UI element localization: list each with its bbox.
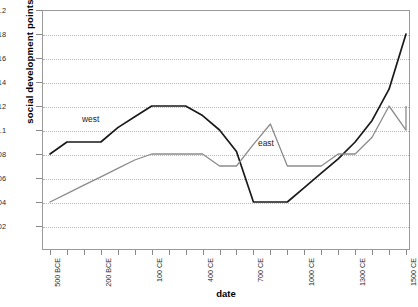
x-tick-mark	[321, 250, 322, 255]
y-tick-label: 0.16	[0, 54, 6, 63]
x-tick-label: 1500 CE	[409, 258, 418, 286]
x-tick-mark	[389, 250, 390, 255]
x-tick-mark	[338, 250, 339, 255]
x-tick-label: 100 CE	[155, 258, 164, 282]
x-tick-label: 200 BCE	[104, 258, 113, 287]
y-tick-label: 0.1	[0, 126, 6, 135]
x-tick-mark	[101, 250, 102, 255]
x-tick-label: 500 BCE	[53, 258, 62, 287]
series-line-west	[50, 34, 406, 202]
x-tick-mark	[270, 250, 271, 255]
x-tick-mark	[355, 250, 356, 255]
y-tick-label: 0.02	[0, 222, 6, 231]
x-tick-mark	[236, 250, 237, 255]
x-tick-mark	[67, 250, 68, 255]
x-tick-label: 1300 CE	[358, 258, 367, 286]
x-tick-mark	[220, 250, 221, 255]
x-tick-mark	[118, 250, 119, 255]
x-tick-mark	[253, 250, 254, 255]
y-tick-label: 0.18	[0, 30, 6, 39]
series-label-east: east	[258, 138, 274, 148]
x-tick-mark	[50, 250, 51, 255]
x-tick-mark	[203, 250, 204, 255]
x-tick-mark	[406, 250, 407, 255]
y-tick-label: 0.06	[0, 174, 6, 183]
y-tick-label: 0.2	[0, 6, 6, 15]
y-tick-label: 0.14	[0, 78, 6, 87]
x-tick-mark	[169, 250, 170, 255]
y-axis-title: social development points	[24, 0, 35, 147]
line-chart: social development points date 0.020.040…	[0, 0, 418, 307]
series-line-east	[50, 106, 406, 202]
y-tick-label: 0.08	[0, 150, 6, 159]
y-tick-label: 0.04	[0, 198, 6, 207]
x-axis-title: date	[42, 288, 410, 299]
x-tick-mark	[135, 250, 136, 255]
x-tick-label: 700 CE	[256, 258, 265, 282]
x-tick-mark	[186, 250, 187, 255]
x-tick-mark	[372, 250, 373, 255]
x-tick-label: 400 CE	[206, 258, 215, 282]
series-label-west: west	[82, 114, 99, 124]
x-tick-mark	[152, 250, 153, 255]
series-lines	[42, 10, 410, 250]
x-tick-mark	[84, 250, 85, 255]
y-tick-label: 0.12	[0, 102, 6, 111]
x-tick-label: 1000 CE	[307, 258, 316, 286]
x-tick-mark	[304, 250, 305, 255]
x-tick-mark	[287, 250, 288, 255]
